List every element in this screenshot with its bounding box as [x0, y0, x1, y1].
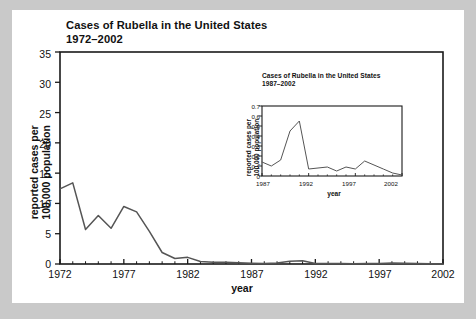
inset-chart-title: Cases of Rubella in the United States 19…: [262, 72, 380, 88]
main-chart-title-line2: 1972–2002: [66, 32, 267, 46]
main-chart-title: Cases of Rubella in the United States 19…: [66, 18, 267, 46]
main-ytick-5: 5: [25, 228, 51, 240]
main-ytick-20: 20: [25, 138, 51, 150]
inset-xtick-1987: 1987: [256, 180, 270, 187]
main-ytick-15: 15: [25, 168, 51, 180]
main-ytick-35: 35: [25, 48, 51, 60]
inset-xtick-2002: 2002: [384, 180, 398, 187]
inset-ytick-0-7: 0.7: [244, 103, 260, 110]
main-ytick-0: 0: [25, 258, 51, 270]
inset-chart-frame: [262, 106, 402, 176]
main-xtick-1987: 1987: [240, 268, 263, 280]
main-xtick-1977: 1977: [112, 268, 135, 280]
main-xtick-2002: 2002: [431, 268, 454, 280]
inset-ytick-0-6: 0.6: [244, 113, 260, 120]
inset-chart-title-line2: 1987–2002: [262, 80, 380, 88]
inset-chart-x-axis-label: year: [327, 190, 341, 197]
inset-ytick-0-5: 0.5: [244, 123, 260, 130]
inset-ytick-0-3: 0.3: [244, 143, 260, 150]
inset-ytick-0-2: 0.2: [244, 153, 260, 160]
main-chart-x-axis-label: year: [231, 282, 253, 294]
inset-ytick-0-1: 0.1: [244, 163, 260, 170]
main-xtick-1997: 1997: [368, 268, 391, 280]
figure-panel: Cases of Rubella in the United States 19…: [12, 10, 464, 303]
screenshot-root: Cases of Rubella in the United States 19…: [0, 0, 476, 319]
inset-xtick-1992: 1992: [299, 180, 313, 187]
inset-ytick-0-4: 0.4: [244, 133, 260, 140]
chart-plot-area: [12, 10, 464, 303]
main-ytick-10: 10: [25, 198, 51, 210]
main-chart-title-line1: Cases of Rubella in the United States: [66, 18, 267, 32]
main-xtick-1992: 1992: [304, 268, 327, 280]
inset-chart-title-line1: Cases of Rubella in the United States: [262, 72, 380, 80]
main-xtick-1982: 1982: [176, 268, 199, 280]
inset-ytick-0: 0: [244, 173, 260, 180]
main-xtick-1972: 1972: [48, 268, 71, 280]
rubella-figure: Cases of Rubella in the United States 19…: [12, 10, 464, 303]
main-ytick-25: 25: [25, 108, 51, 120]
main-ytick-30: 30: [25, 78, 51, 90]
inset-chart-axes: [259, 106, 402, 176]
inset-xtick-1997: 1997: [342, 180, 356, 187]
